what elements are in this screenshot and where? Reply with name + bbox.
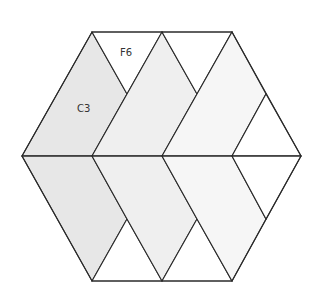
hexagon-diagram: F6 C3 xyxy=(0,0,318,298)
label-c3: C3 xyxy=(77,103,90,114)
label-f6: F6 xyxy=(120,47,132,58)
